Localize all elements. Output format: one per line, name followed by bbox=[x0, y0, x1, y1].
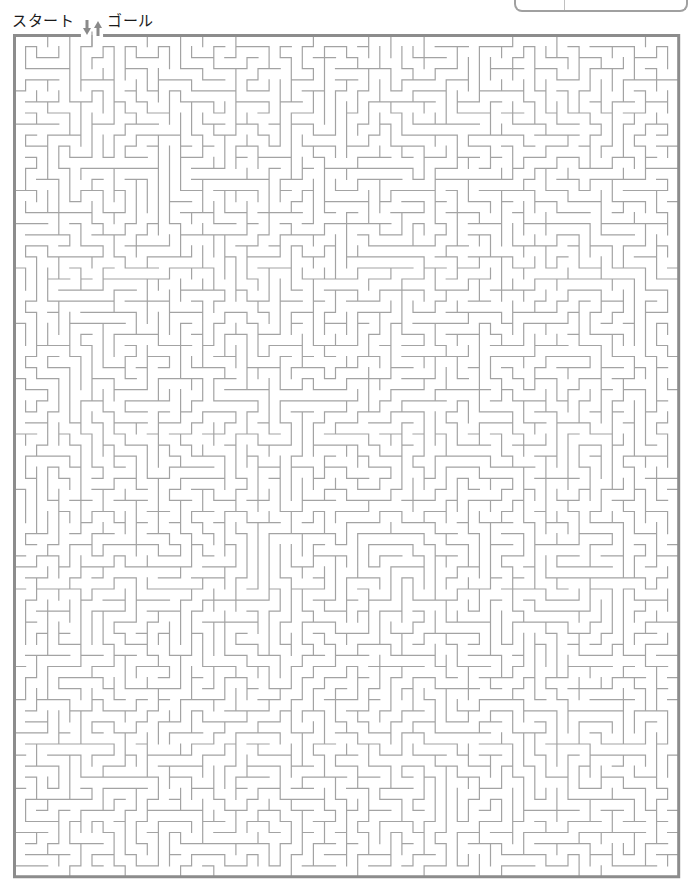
maze-walls bbox=[15, 36, 679, 877]
maze-board[interactable] bbox=[0, 0, 690, 882]
